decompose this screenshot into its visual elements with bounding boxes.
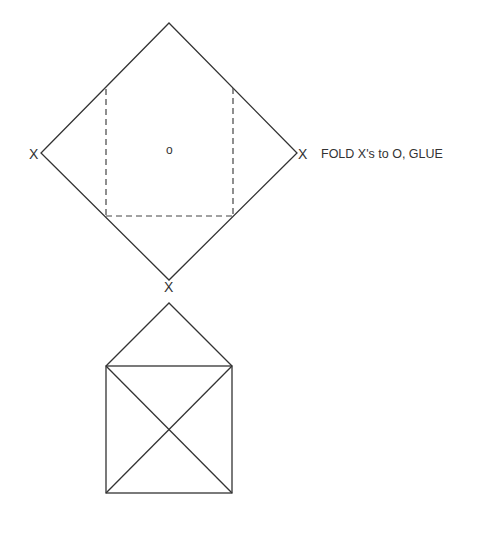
instruction-text: FOLD X's to O, GLUE bbox=[321, 148, 443, 161]
diagram-canvas bbox=[0, 0, 486, 559]
envelope-drawing bbox=[106, 303, 232, 493]
x-mark-bottom: X bbox=[164, 280, 173, 294]
center-o-mark: o bbox=[166, 144, 173, 156]
x-mark-right: X bbox=[298, 147, 307, 161]
envelope-flap bbox=[106, 303, 232, 366]
x-mark-left: X bbox=[29, 147, 38, 161]
